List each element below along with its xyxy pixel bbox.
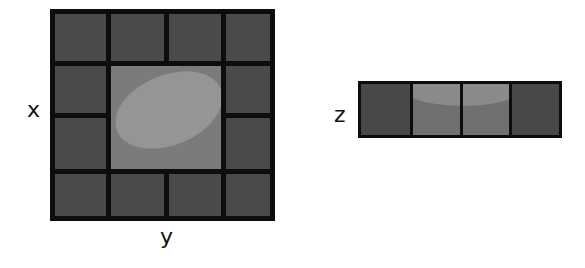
grid-cell (55, 174, 106, 216)
axis-label-z: z (334, 104, 346, 126)
grid-cell (226, 174, 270, 216)
ellipse-cap-shape (463, 84, 509, 106)
grid-cell (55, 118, 106, 169)
axis-label-x: x (27, 99, 40, 121)
strip-cell (512, 84, 559, 135)
grid-cell (226, 66, 270, 113)
strip-cell-highlighted (463, 84, 509, 135)
xy-grid-diagram (50, 9, 275, 221)
grid-cell (111, 14, 164, 61)
grid-cell (169, 14, 221, 61)
center-region (111, 66, 221, 169)
ellipse-shape (111, 66, 221, 163)
grid-cell (55, 14, 106, 61)
ellipse-cap-shape (413, 84, 460, 106)
grid-cell (226, 118, 270, 169)
strip-cell-highlighted (413, 84, 460, 135)
grid-cell (111, 174, 164, 216)
axis-label-y: y (160, 226, 173, 248)
grid-cell (55, 66, 106, 113)
grid-cell (169, 174, 221, 216)
grid-cell (226, 14, 270, 61)
strip-cell (361, 84, 410, 135)
z-strip-diagram (358, 81, 562, 138)
